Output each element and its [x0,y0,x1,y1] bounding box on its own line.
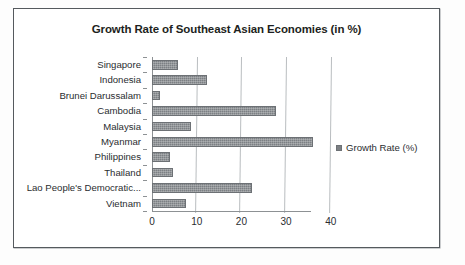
category-tick [143,165,147,166]
chart-title: Growth Rate of Southeast Asian Economies… [14,23,439,35]
legend-label-growth-rate: Growth Rate (%) [346,142,417,153]
category-label: Vietnam [106,196,141,211]
bar-myanmar [152,137,313,147]
chart-legend: Growth Rate (%) [336,142,417,153]
bar-vietnam [152,199,186,209]
bar-lao-people-s-democratic [152,183,252,193]
category-tick [143,211,147,212]
category-label: Lao People's Democratic... [27,180,141,195]
value-axis-baseline [152,211,311,212]
category-tick [143,103,147,104]
bar-row [152,103,310,118]
value-axis: 010203040 [152,216,332,232]
bar-row [152,196,310,211]
value-tick-label: 10 [191,216,202,227]
category-tick [143,196,147,197]
value-tick-label: 0 [149,216,155,227]
category-tick [143,57,147,58]
category-tick [143,180,147,181]
category-label: Philippines [95,149,141,164]
bar-row [152,165,310,180]
category-label: Singapore [97,57,141,72]
value-tick-label: 30 [281,216,292,227]
category-axis: SingaporeIndonesiaBrunei DarussalamCambo… [16,57,147,211]
bar-row [152,180,310,195]
value-tick-label: 40 [325,216,336,227]
category-tick [143,149,147,150]
bar-cambodia [152,106,276,116]
category-label: Thailand [104,165,141,180]
category-tick [143,72,147,73]
bar-thailand [152,168,173,178]
bar-row [152,149,310,164]
category-tick [143,88,147,89]
plot-area [152,57,310,211]
category-label: Indonesia [99,72,141,87]
category-label: Myanmar [101,134,141,149]
bar-malaysia [152,122,191,132]
legend-swatch-growth-rate [336,145,342,151]
category-tick [143,134,147,135]
bar-row [152,88,310,103]
scanned-page: Growth Rate of Southeast Asian Economies… [0,0,465,265]
value-tick-label: 20 [236,216,247,227]
category-label: Brunei Darussalam [59,88,141,103]
bar-indonesia [152,75,207,85]
bar-philippines [152,152,170,162]
bar-row [152,119,310,134]
bar-row [152,72,310,87]
bar-row [152,57,310,72]
category-tick [143,119,147,120]
category-label: Malaysia [103,119,141,134]
bar-brunei-darussalam [152,91,160,101]
bar-row [152,134,310,149]
category-label: Cambodia [97,103,141,118]
bar-singapore [152,60,178,70]
